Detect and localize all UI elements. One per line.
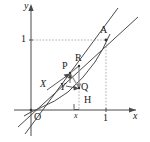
- point-dot-R: [78, 65, 80, 67]
- point-dot-Q: [78, 87, 80, 89]
- point-label-H: H: [84, 95, 91, 105]
- vector-label-Y: Y: [60, 82, 66, 92]
- vector-label-X: X: [40, 79, 46, 89]
- figure-canvas: [0, 0, 150, 142]
- vector-X-arrow: [47, 74, 70, 91]
- point-dot-P: [69, 72, 71, 74]
- math-figure: y x 1 1 x O A R P Q H X Y: [0, 0, 150, 142]
- y-axis-arrowhead: [28, 4, 33, 11]
- x-axis-label: x: [133, 111, 137, 121]
- point-dot-O: [30, 109, 33, 112]
- x-value-label: x: [74, 112, 78, 120]
- point-label-A: A: [100, 25, 107, 35]
- right-angle-marker-H: [74, 104, 79, 110]
- axis-arrowheads: [28, 4, 136, 113]
- point-label-P: P: [62, 61, 68, 71]
- point-label-Q: Q: [81, 82, 88, 92]
- y-axis-label: y: [24, 1, 28, 11]
- x-axis-tick-label-1: 1: [103, 113, 108, 123]
- point-dot-A: [105, 39, 108, 42]
- y-axis-tick-label-1: 1: [21, 34, 26, 44]
- point-label-R: R: [75, 53, 82, 63]
- point-label-O: O: [34, 112, 41, 122]
